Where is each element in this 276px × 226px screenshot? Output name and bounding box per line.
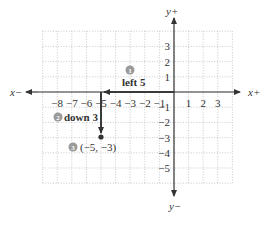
y-tick-label: 2	[165, 56, 171, 68]
y-neg-label: y−	[168, 200, 181, 212]
x-tick-label: −2	[139, 97, 151, 109]
y-tick-labels: 321−1−2−3−4−5	[158, 40, 170, 174]
step-1-label: left 5	[122, 76, 146, 88]
x-tick-label: −6	[81, 97, 93, 109]
y-tick-label: 3	[165, 40, 171, 52]
y-pos-label: y+	[165, 5, 178, 17]
x-tick-label: −4	[110, 97, 122, 109]
y-tick-label: −1	[158, 101, 170, 113]
svg-text:2: 2	[56, 114, 60, 122]
x-tick-label: −7	[66, 97, 78, 109]
y-tick-label: −5	[158, 162, 170, 174]
y-tick-label: −2	[158, 116, 170, 128]
x-tick-label: −8	[51, 97, 63, 109]
x-tick-label: −3	[124, 97, 136, 109]
step-1-badge: 1	[126, 66, 135, 76]
x-pos-label: x+	[247, 86, 260, 98]
x-tick-label: 1	[186, 97, 192, 109]
x-neg-label: x−	[9, 86, 22, 98]
svg-text:3: 3	[71, 144, 75, 152]
svg-text:1: 1	[128, 67, 132, 75]
x-tick-label: 2	[200, 97, 206, 109]
y-tick-label: 1	[165, 71, 171, 83]
y-tick-label: −3	[158, 132, 170, 144]
step-2-badge: 2	[54, 113, 63, 123]
step-3-badge: 3	[69, 143, 78, 153]
y-tick-label: −4	[158, 147, 170, 159]
x-tick-labels: −8−7−6−5−4−3−2−1123	[51, 97, 221, 109]
x-tick-label: 3	[215, 97, 221, 109]
step-2-label: down 3	[64, 111, 98, 123]
coordinate-plane-figure: x− x+ y+ y− −8−7−6−5−4−3−2−1123 321−1−2−…	[0, 0, 276, 226]
point-marker	[98, 134, 103, 139]
point-label: (−5, −3)	[80, 141, 117, 154]
